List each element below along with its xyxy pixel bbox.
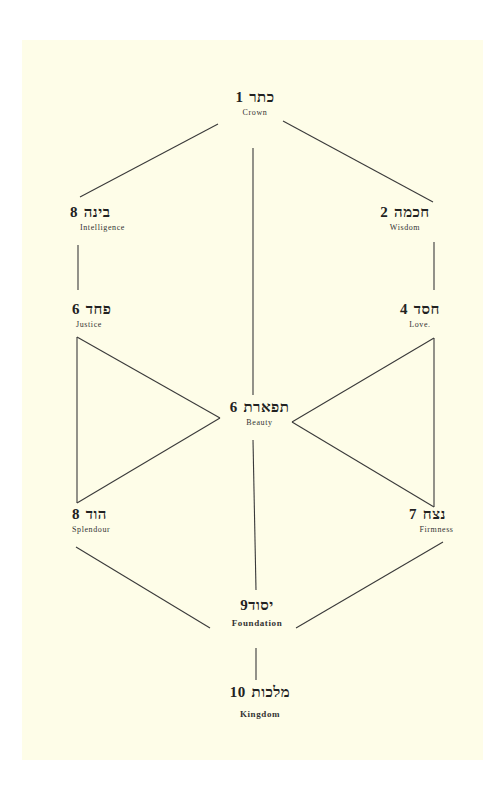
sefira-firmness: נצח 7 Firmness: [390, 505, 465, 534]
sefira-number: 1: [235, 89, 243, 105]
hebrew-label: תפארת: [243, 398, 289, 416]
english-label: Firmness: [408, 525, 465, 534]
hebrew-label: פחד: [86, 300, 112, 318]
hebrew-label: בינה: [84, 203, 111, 221]
english-label: Kingdom: [210, 709, 310, 719]
english-label: Foundation: [212, 618, 302, 628]
sefira-justice: 6 פחד Justice: [72, 300, 152, 329]
sefira-number: 6: [72, 301, 80, 317]
english-label: Love.: [385, 320, 455, 329]
sefirot-connection-lines: [0, 0, 500, 786]
sefira-number: 8: [72, 506, 80, 522]
english-label: Splendour: [72, 525, 152, 534]
english-label: Beauty: [212, 418, 307, 427]
sefira-number: 8: [70, 204, 78, 220]
hebrew-label: יסוד: [248, 596, 274, 614]
hebrew-label: מלכות: [252, 683, 291, 701]
hebrew-label: הוד: [86, 505, 107, 523]
hebrew-label: חסד: [414, 300, 440, 318]
sefira-foundation: יסוד9 Foundation: [212, 596, 302, 628]
sefira-number: 6: [230, 399, 238, 415]
hebrew-label: כתר: [249, 88, 274, 106]
hebrew-label: חכמה: [394, 203, 430, 221]
sefira-wisdom: חכמה 2 Wisdom: [365, 203, 445, 232]
sefira-number: 2: [380, 204, 388, 220]
sefira-number: 4: [400, 301, 408, 317]
sefira-beauty: תפארת 6 Beauty: [212, 398, 307, 427]
hebrew-label: נצח: [423, 505, 446, 523]
english-label: Justice: [76, 320, 152, 329]
sefira-splendour: 8 הוד Splendour: [72, 505, 152, 534]
sefira-number: 10: [230, 684, 246, 700]
english-label: Intelligence: [80, 223, 160, 232]
english-label: Wisdom: [365, 223, 445, 232]
sefira-intelligence: 8 בינה Intelligence: [70, 203, 160, 232]
sefira-crown: כתר 1 Crown: [215, 88, 295, 117]
sefira-kingdom: מלכות 10 Kingdom: [210, 683, 310, 719]
english-label: Crown: [215, 108, 295, 117]
sefira-love: חסד 4 Love.: [385, 300, 455, 329]
sefira-number: 7: [409, 506, 417, 522]
